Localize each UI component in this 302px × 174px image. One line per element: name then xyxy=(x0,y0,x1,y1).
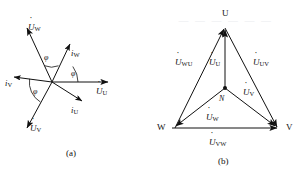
label-vertex-w: W xyxy=(157,123,166,132)
label-phi-w: φ xyxy=(44,54,48,62)
arc-phi-w xyxy=(45,66,59,67)
label-voltage-v-sub: V xyxy=(37,126,42,133)
label-current-u-sub: U xyxy=(73,108,78,115)
label-current-u: iU xyxy=(71,106,78,116)
label-line-voltage-vw: UVW xyxy=(209,138,227,148)
label-voltage-w: UW xyxy=(28,23,41,33)
figure-drawing xyxy=(0,0,302,174)
label-current-v-sub: V xyxy=(7,81,12,88)
caption-panel-b: (b) xyxy=(218,157,229,166)
label-phase-voltage-w-base: U xyxy=(206,113,213,122)
edge-u-to-v xyxy=(225,28,277,127)
label-voltage-u-base: U xyxy=(96,87,103,96)
vector-current-u xyxy=(52,82,82,101)
label-voltage-u: UU xyxy=(96,87,107,97)
label-vertex-u: U xyxy=(222,9,229,18)
panel-b-drawing xyxy=(172,28,277,128)
label-line-voltage-uv-sub: UV xyxy=(260,60,270,67)
label-line-voltage-wu: UWU xyxy=(175,58,193,68)
label-phase-voltage-w-sub: W xyxy=(213,115,219,122)
label-line-voltage-vw-base: U xyxy=(209,138,216,147)
label-phi-u: φ xyxy=(71,70,75,78)
label-current-v: iV xyxy=(5,79,12,89)
panel-a-drawing xyxy=(14,28,108,128)
label-line-voltage-vw-sub: VW xyxy=(216,140,227,147)
label-voltage-w-base: U xyxy=(28,23,35,32)
label-vertex-v: V xyxy=(286,123,293,132)
label-line-voltage-uv-base: U xyxy=(253,58,260,67)
label-voltage-v: UV xyxy=(30,124,41,134)
vector-current-w xyxy=(52,44,70,82)
label-voltage-w-sub: W xyxy=(35,25,41,32)
label-phase-voltage-v-base: U xyxy=(243,88,250,97)
figure-container: — — — — — — xyxy=(0,0,302,174)
label-line-voltage-wu-base: U xyxy=(175,58,182,67)
label-phase-voltage-u-sub: U xyxy=(216,60,221,67)
node-n-dot xyxy=(223,86,227,90)
label-current-w: iW xyxy=(71,49,80,59)
label-line-voltage-wu-sub: WU xyxy=(182,60,193,67)
label-phase-voltage-v: UV xyxy=(243,88,254,98)
vector-current-v xyxy=(14,77,52,82)
label-node-n: N xyxy=(219,95,224,103)
label-voltage-v-base: U xyxy=(30,124,37,133)
label-current-w-sub: W xyxy=(73,51,79,58)
caption-panel-a: (a) xyxy=(66,149,76,158)
label-phase-voltage-v-sub: V xyxy=(250,90,255,97)
label-voltage-u-sub: U xyxy=(103,89,108,96)
label-phi-v: φ xyxy=(33,88,37,96)
label-phase-voltage-u-base: U xyxy=(209,58,216,67)
label-phase-voltage-u: UU xyxy=(209,58,220,68)
label-phase-voltage-w: UW xyxy=(206,113,219,123)
label-line-voltage-uv: UUV xyxy=(253,58,269,68)
